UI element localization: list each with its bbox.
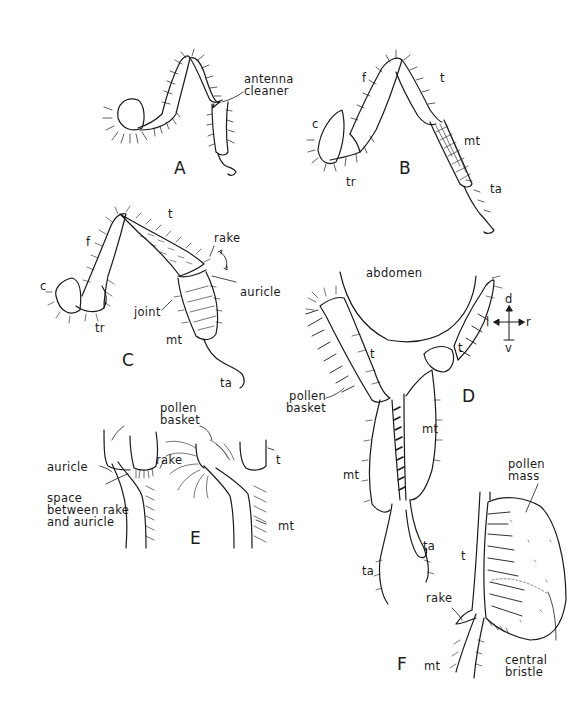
- label-e-rake: rake: [156, 454, 182, 466]
- panel-a-leg-drawing: [103, 49, 243, 175]
- label-c-metatarsus: mt: [166, 334, 182, 346]
- compass-left: l: [486, 316, 490, 328]
- label-c-auricle: auricle: [240, 286, 281, 298]
- label-d-metatarsus-left: mt: [343, 469, 359, 481]
- label-f-tibia: t: [461, 550, 466, 562]
- panel-f-drawing: [450, 492, 566, 678]
- panel-e-left-drawing: [104, 430, 158, 548]
- label-d-tarsus-right: ta: [423, 540, 435, 552]
- line-drawing: [0, 0, 587, 708]
- label-e-space-line3: and auricle: [47, 516, 129, 528]
- label-d-pollen-basket-line2: basket: [286, 402, 326, 414]
- label-d-tarsus-left: ta: [362, 565, 374, 577]
- panel-d-leg-drawing: [306, 272, 502, 604]
- label-d-tibia-right: t: [458, 342, 463, 354]
- label-e-tibia: t: [276, 454, 281, 466]
- compass-rose: [494, 306, 524, 340]
- label-f-central-bristle: central bristle: [505, 654, 547, 678]
- label-f-rake: rake: [426, 592, 452, 604]
- label-f-pollen-mass-line2: mass: [508, 470, 545, 482]
- label-antenna-cleaner-line2: cleaner: [244, 85, 294, 97]
- label-b-metatarsus: mt: [464, 135, 480, 147]
- label-b-femur: f: [362, 72, 366, 84]
- panel-letter-f: F: [397, 656, 407, 673]
- compass-dorsal: d: [505, 293, 513, 305]
- label-d-tibia-left: t: [370, 348, 375, 360]
- panel-f-leader-lines: [452, 484, 556, 640]
- label-c-tarsus: ta: [220, 377, 232, 389]
- panel-letter-d: D: [462, 388, 475, 405]
- label-b-trochanter: tr: [346, 176, 356, 188]
- label-e-space-between: space between rake and auricle: [47, 492, 129, 528]
- bee-leg-figure: antenna cleaner A f t c mt B tr ta t f r…: [0, 0, 587, 708]
- label-f-pollen-mass: pollen mass: [508, 458, 545, 482]
- label-c-tibia: t: [168, 208, 173, 220]
- label-c-femur: f: [86, 236, 90, 248]
- label-f-metatarsus: mt: [424, 660, 440, 672]
- label-f-central-bristle-line2: bristle: [505, 666, 547, 678]
- label-e-pollen-basket-line2: basket: [160, 414, 200, 426]
- label-antenna-cleaner: antenna cleaner: [244, 73, 294, 97]
- label-e-auricle: auricle: [47, 461, 88, 473]
- label-d-metatarsus-right: mt: [422, 423, 438, 435]
- panel-letter-b: B: [399, 160, 411, 177]
- label-c-trochanter: tr: [95, 322, 105, 334]
- compass-ventral: v: [505, 342, 512, 354]
- label-c-rake: rake: [214, 232, 240, 244]
- label-c-coxa: c: [40, 280, 47, 292]
- label-e-metatarsus: mt: [278, 520, 294, 532]
- label-e-pollen-basket: pollen basket: [160, 402, 200, 426]
- label-b-coxa: c: [312, 118, 319, 130]
- label-b-tibia: t: [440, 72, 445, 84]
- panel-letter-e: E: [190, 530, 201, 547]
- label-d-abdomen: abdomen: [366, 267, 422, 279]
- label-b-tarsus: ta: [490, 183, 502, 195]
- compass-right: r: [526, 316, 531, 328]
- label-c-joint: joint: [134, 306, 161, 318]
- panel-letter-a: A: [174, 160, 186, 177]
- label-d-pollen-basket: pollen basket: [286, 390, 326, 414]
- panel-letter-c: C: [122, 352, 134, 369]
